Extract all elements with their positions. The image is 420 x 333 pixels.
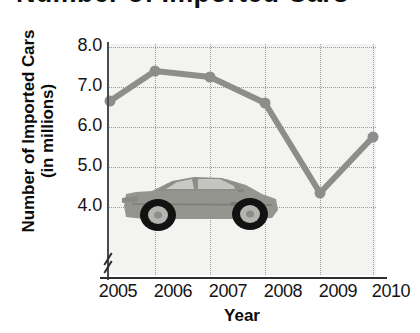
x-tick-label: 2005 xyxy=(90,281,146,302)
x-axis-tick-labels: 2005 2006 2007 2008 2009 2010 xyxy=(88,281,398,307)
x-axis-line xyxy=(100,277,387,279)
x-axis-title: Year xyxy=(108,306,376,326)
series-polyline xyxy=(110,71,373,193)
x-tick-label: 2006 xyxy=(145,281,201,302)
data-point-2006 xyxy=(150,66,161,77)
data-point-2007 xyxy=(205,72,216,83)
x-tick-label: 2009 xyxy=(310,281,366,302)
y-tick-label: 8.0 xyxy=(56,35,102,56)
x-tick-label: 2007 xyxy=(200,281,256,302)
data-series-line xyxy=(108,44,376,275)
y-tick-label: 4.0 xyxy=(56,195,102,216)
y-tick-label: 7.0 xyxy=(56,75,102,96)
x-tick-label: 2010 xyxy=(363,281,419,302)
y-axis-title-line1: Number of Imported Cars xyxy=(19,6,38,256)
chart-page: Number of Imported Cars Number of Import… xyxy=(0,0,420,333)
y-tick-label: 6.0 xyxy=(56,115,102,136)
data-point-2009 xyxy=(315,188,326,199)
data-point-2008 xyxy=(260,98,271,109)
plot-area xyxy=(108,44,376,275)
y-tick-label: 5.0 xyxy=(56,155,102,176)
y-axis-line xyxy=(107,42,109,280)
data-point-2010 xyxy=(368,132,379,143)
x-tick-label: 2008 xyxy=(255,281,311,302)
